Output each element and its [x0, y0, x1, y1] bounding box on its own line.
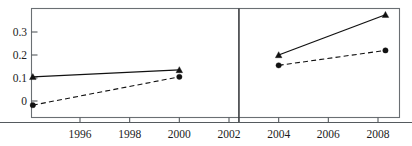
x-tick-label: 1996	[69, 128, 92, 140]
x-axis-tick-labels: 1996199820002002200420062008	[69, 128, 390, 140]
x-tick-label: 2004	[267, 128, 290, 140]
x-tick-label: 2008	[367, 128, 390, 140]
data-series-group	[30, 11, 389, 107]
x-tick-label: 2000	[168, 128, 191, 140]
x-tick-label: 2002	[218, 128, 241, 140]
y-tick-label: 0.1	[13, 72, 28, 84]
y-tick-label: 0.2	[13, 49, 28, 61]
y-axis-tick-labels: 00.10.20.3	[13, 26, 28, 107]
data-point-circle	[383, 48, 388, 53]
x-tick-label: 2006	[317, 128, 340, 140]
data-point-circle	[177, 74, 182, 79]
y-tick-label: 0.3	[13, 26, 28, 38]
chart-figure: 00.10.20.3 1996199820002002200420062008	[0, 0, 412, 146]
series-line-triangle-right	[279, 15, 386, 55]
x-axis-ticks	[80, 118, 378, 123]
y-axis-ticks	[32, 32, 38, 101]
plot-frame	[32, 9, 400, 118]
data-point-circle	[276, 63, 281, 68]
data-point-circle	[30, 102, 35, 107]
data-point-triangle	[382, 11, 389, 17]
y-tick-label: 0	[21, 95, 27, 107]
x-tick-label: 1998	[118, 128, 141, 140]
series-line-circle-left	[33, 77, 180, 105]
chart-canvas: 00.10.20.3 1996199820002002200420062008	[0, 0, 412, 146]
series-line-triangle-left	[33, 70, 180, 77]
series-line-circle-right	[279, 50, 386, 65]
